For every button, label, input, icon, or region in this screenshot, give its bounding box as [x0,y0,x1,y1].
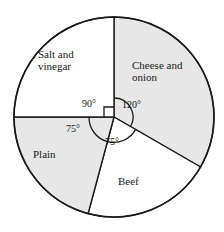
pie-slice-salt-and-vinegar [14,17,114,117]
pie-chart-figure: Salt and vinegar Cheese and onion Plain … [0,0,224,232]
pie-chart-svg [0,0,224,232]
